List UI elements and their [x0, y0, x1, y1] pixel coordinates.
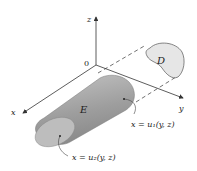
y-axis-label: y: [178, 104, 184, 113]
x-axis-label: x: [11, 108, 16, 117]
surface-u2-label: x = u₂(y, z): [72, 153, 116, 162]
region-d: [146, 43, 184, 78]
z-axis-label: z: [86, 15, 92, 24]
projection-line-bottom: [136, 77, 176, 102]
triple-integral-diagram: z 0 y x D E x = u₁(y, z) x = u₂(y, z): [0, 0, 197, 171]
solid-e-label: E: [79, 104, 88, 115]
surface-u1-label: x = u₁(y, z): [131, 120, 175, 129]
projection-line-top: [98, 45, 146, 73]
region-d-label: D: [156, 55, 165, 66]
origin-label: 0: [84, 59, 89, 68]
